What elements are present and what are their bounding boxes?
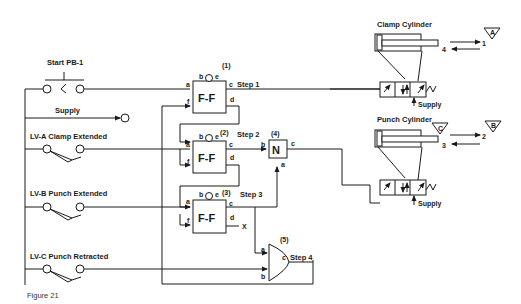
svg-text:(3): (3) [222,189,231,197]
lv-c-limit-valve: LV-C Punch Retracted [25,252,267,282]
punch-valve: Supply [380,180,441,208]
supply-label: Supply [55,106,81,115]
step-2-label: Step 2 [237,130,260,139]
svg-text:c: c [229,141,233,148]
svg-text:a: a [261,246,265,253]
svg-text:a: a [281,161,285,168]
lv-a-limit-valve: LV-A Clamp Extended [25,132,190,162]
start-label: Start PB-1 [47,58,83,67]
svg-text:(1): (1) [222,62,231,70]
svg-text:(2): (2) [220,129,229,137]
svg-text:A: A [490,29,495,36]
start-pushbutton: Start PB-1 [25,58,190,93]
svg-text:F-F: F-F [198,212,215,224]
svg-text:f: f [187,217,190,224]
svg-text:Clamp Cylinder: Clamp Cylinder [377,20,432,29]
step-1-label: Step 1 [237,80,260,89]
svg-text:Punch Cylinder: Punch Cylinder [377,115,432,124]
and-gate: (5) a b c Step 4 [261,236,313,281]
step-3-label: Step 3 [240,190,263,199]
svg-text:e: e [215,191,219,198]
svg-text:2: 2 [482,133,486,140]
not-output-line [287,149,380,203]
supply-port-icon [121,114,129,122]
flipflop-1: F-F b e (1) a f c Step 1 d [186,62,260,113]
svg-text:F-F: F-F [198,152,215,164]
figure-caption: Figure 21 [27,291,59,300]
svg-text:F-F: F-F [198,92,215,104]
svg-text:4: 4 [442,46,446,53]
svg-text:d: d [230,96,234,103]
svg-text:c: c [229,81,233,88]
svg-text:(4): (4) [271,130,280,138]
svg-text:b: b [261,141,265,148]
x-output-label: X [242,223,247,230]
step-4-label: Step 4 [290,253,313,262]
pneumatic-logic-diagram: Start PB-1 Supply LV-A Clamp Extended LV… [0,0,521,304]
lv-c-label: LV-C Punch Retracted [30,252,109,261]
flipflop-3: F-F b e (3) a f c Step 3 d X [186,189,263,233]
svg-text:(5): (5) [280,236,289,244]
clamp-cylinder: Clamp Cylinder 4 1 A [375,20,500,81]
svg-text:1: 1 [482,40,486,47]
svg-text:C: C [438,125,443,132]
svg-text:b: b [199,133,203,140]
lv-b-limit-valve: LV-B Punch Extended [25,189,190,220]
svg-text:b: b [199,73,203,80]
svg-text:d: d [230,214,234,221]
svg-text:a: a [186,141,190,148]
svg-text:Supply: Supply [418,200,441,208]
svg-text:e: e [215,133,219,140]
punch-cylinder: Punch Cylinder C 3 2 B [375,115,501,180]
svg-text:a: a [186,198,190,205]
svg-text:d: d [230,154,234,161]
svg-text:b: b [261,273,265,280]
svg-text:c: c [229,200,233,207]
supply-input: Supply [25,106,129,122]
lv-b-label: LV-B Punch Extended [30,189,108,198]
svg-text:f: f [187,158,190,165]
svg-text:B: B [491,122,496,129]
lv-a-label: LV-A Clamp Extended [30,132,108,141]
svg-text:c: c [291,140,295,147]
svg-text:3: 3 [442,142,446,149]
svg-text:N: N [272,144,280,156]
svg-text:a: a [186,81,190,88]
svg-text:c: c [282,254,286,261]
svg-text:e: e [215,73,219,80]
clamp-valve: Supply [380,82,441,109]
svg-text:b: b [199,191,203,198]
svg-text:f: f [187,98,190,105]
svg-text:Supply: Supply [418,101,441,109]
contact-circle-icon [76,85,84,93]
flipflop-2: F-F b e (2) a f c Step 2 d [186,129,260,173]
contact-circle-icon [43,85,51,93]
